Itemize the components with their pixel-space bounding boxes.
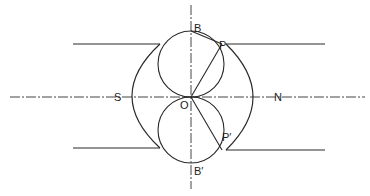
- label-origin: O: [180, 99, 189, 111]
- label-B-prime: B′: [194, 165, 203, 177]
- label-P: P: [219, 39, 226, 51]
- label-P-prime: P′: [222, 131, 231, 143]
- label-B: B: [194, 22, 201, 34]
- label-south: S: [114, 91, 121, 103]
- magnetic-pole-diagram: S N O B B′ P P′: [0, 0, 370, 196]
- chord-O-P-prime: [191, 97, 222, 150]
- label-north: N: [274, 91, 282, 103]
- chord-O-P: [191, 44, 222, 97]
